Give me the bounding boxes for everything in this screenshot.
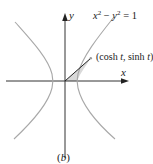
y-axis-label: y: [68, 9, 74, 21]
point-marker: [90, 57, 92, 59]
hyperbola-right-branch: [77, 17, 115, 139]
point-label: (cosh t, sinh t): [96, 51, 153, 63]
x-axis-arrow-icon: [121, 78, 129, 84]
hyperbola-diagram: y x x2 − y2 = 1 (cosh t, sinh t) (b): [0, 0, 153, 164]
x-axis-label: x: [120, 66, 126, 78]
equation-label: x2 − y2 = 1: [92, 9, 137, 21]
figure-caption: (b): [57, 151, 70, 164]
y-axis-arrow-icon: [62, 13, 68, 21]
